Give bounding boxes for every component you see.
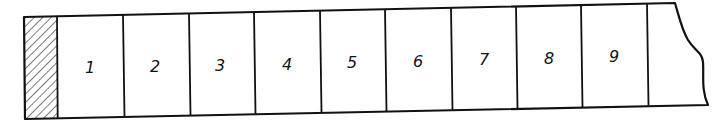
divider (451, 8, 453, 110)
cell-label: 4 (282, 55, 292, 74)
cell-label: 1 (85, 58, 95, 77)
divider (647, 4, 649, 106)
cell-label: 2 (150, 57, 160, 76)
divider (254, 12, 256, 114)
hatched-end-cell (24, 16, 58, 119)
divider (123, 15, 125, 117)
divider (320, 11, 322, 113)
cell-labels: 1 2 3 4 5 6 7 8 9 (85, 47, 619, 77)
segmented-strip-diagram: 1 2 3 4 5 6 7 8 9 (0, 0, 728, 128)
cell-label: 7 (479, 50, 490, 69)
cell-label: 9 (609, 47, 619, 66)
divider (581, 5, 583, 107)
cell-label: 3 (215, 56, 225, 75)
divider (516, 6, 518, 108)
divider (189, 14, 191, 116)
cell-label: 6 (413, 52, 423, 71)
strip-outline (24, 3, 708, 119)
cell-label: 8 (544, 49, 554, 68)
cell-label: 5 (347, 53, 357, 72)
divider (57, 16, 58, 118)
divider (385, 9, 387, 111)
